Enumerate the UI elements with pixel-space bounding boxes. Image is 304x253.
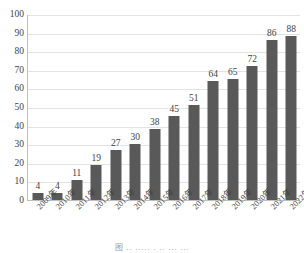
x-axis-tick: 2014年 — [125, 202, 145, 240]
bar-value-label: 19 — [92, 153, 102, 163]
x-axis-tick: 2020年 — [242, 202, 262, 240]
bar-value-label: 11 — [72, 168, 81, 178]
x-axis-tick: 2016年 — [164, 202, 184, 240]
bar-slot: 65 — [223, 15, 243, 200]
plot-area: 44111927303845516465728688 — [27, 15, 300, 201]
x-axis-tick: 2019年 — [222, 202, 242, 240]
y-axis-tick-label: 20 — [0, 159, 24, 169]
bar-value-label: 4 — [35, 181, 40, 191]
x-axis-tick: 2017年 — [183, 202, 203, 240]
bar-slot: 30 — [126, 15, 146, 200]
bar-slot: 64 — [204, 15, 224, 200]
bar[interactable] — [208, 81, 219, 200]
figure-caption: 图 .. ..... . .. ... ... — [0, 243, 304, 253]
bar-slot: 4 — [48, 15, 68, 200]
bar-slot: 51 — [184, 15, 204, 200]
x-axis-tick: 2009年 — [27, 202, 47, 240]
bar-value-label: 65 — [228, 67, 238, 77]
bar-slot: 88 — [282, 15, 302, 200]
bar-value-label: 30 — [131, 132, 141, 142]
bar-slot: 27 — [106, 15, 126, 200]
bar-value-label: 64 — [209, 69, 219, 79]
y-axis-tick-label: 100 — [0, 10, 24, 20]
x-axis-tick: 2018年 — [203, 202, 223, 240]
y-axis-tick-label: 10 — [0, 178, 24, 188]
bar-value-label: 38 — [150, 117, 160, 127]
y-axis-tick-label: 40 — [0, 122, 24, 132]
x-axis: 2009年2010年2011年2012年2013年2014年2015年2016年… — [27, 202, 300, 240]
bar-slot: 4 — [28, 15, 48, 200]
chart-figure: 0102030405060708090100 44111927303845516… — [0, 0, 304, 253]
y-axis-tick-label: 70 — [0, 66, 24, 76]
bar-value-label: 88 — [287, 24, 297, 34]
bar-slot: 19 — [87, 15, 107, 200]
x-axis-tick: 2015年 — [144, 202, 164, 240]
bar-value-label: 86 — [267, 28, 277, 38]
y-axis-tick-label: 90 — [0, 29, 24, 39]
x-axis-tick: 2021年 — [261, 202, 281, 240]
bar[interactable] — [286, 36, 297, 200]
bar-value-label: 27 — [111, 138, 121, 148]
bar-slot: 11 — [67, 15, 87, 200]
y-axis-tick-label: 80 — [0, 47, 24, 57]
y-axis-tick-label: 60 — [0, 85, 24, 95]
bar[interactable] — [188, 105, 199, 200]
bar-slot: 72 — [243, 15, 263, 200]
bar-value-label: 45 — [170, 104, 180, 114]
bar-value-label: 51 — [189, 93, 199, 103]
bar[interactable] — [227, 79, 238, 200]
x-axis-tick: 2010年 — [47, 202, 67, 240]
x-axis-tick: 2011年 — [66, 202, 86, 240]
bar-slot: 45 — [165, 15, 185, 200]
bar-slot: 38 — [145, 15, 165, 200]
y-axis-tick-label: 50 — [0, 103, 24, 113]
y-axis-tick-label: 30 — [0, 140, 24, 150]
x-axis-tick: 2013年 — [105, 202, 125, 240]
x-axis-tick: 2022年 — [281, 202, 301, 240]
bar-slot: 86 — [262, 15, 282, 200]
bar[interactable] — [266, 40, 277, 200]
x-axis-tick: 2012年 — [86, 202, 106, 240]
bar[interactable] — [247, 66, 258, 200]
bar-value-label: 72 — [248, 54, 258, 64]
y-axis: 0102030405060708090100 — [0, 15, 24, 201]
y-axis-tick-label: 0 — [0, 196, 24, 206]
